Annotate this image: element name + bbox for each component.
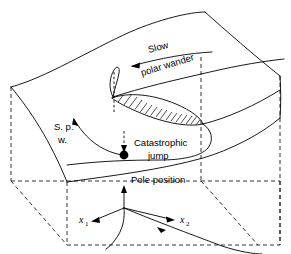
control-plane-axes: x 1 x 2: [78, 208, 262, 254]
axis-x2-arrowhead: [166, 217, 175, 223]
slow-label: Slow: [147, 39, 170, 55]
axis-x2-subscript: 2: [186, 220, 190, 228]
pole-position-annotation: Pole position: [121, 174, 185, 208]
polar-wander-label: polar wander: [139, 51, 195, 78]
catastrophic-jump-annotation: Catastrophic jump: [120, 131, 188, 161]
base-edge-left-receding: [11, 181, 67, 245]
pole-position-arrowhead: [121, 185, 127, 193]
spw-annotation: S. p. w.: [54, 118, 122, 155]
surface-fold-right-branch: [203, 90, 280, 124]
spw-label-line1: S. p.: [54, 121, 74, 132]
axis-x1-arrowhead: [91, 217, 100, 223]
spw-label-line2: w.: [57, 134, 67, 145]
surface-edge-front-lower: [67, 118, 280, 182]
diagram-canvas: Slow polar wander S. p. w. Catastrophic …: [0, 0, 291, 254]
axis-x1-subscript: 1: [85, 220, 89, 228]
bifurcation-branch-arrowhead: [157, 227, 166, 233]
base-edge-inner-receding: [201, 181, 258, 245]
pole-state-marker-dot: [120, 151, 129, 160]
jump-label: jump: [147, 150, 169, 161]
surface-edge-back-right: [205, 12, 280, 76]
axis-x1-line: [95, 208, 124, 220]
pole-position-label: Pole position: [131, 174, 185, 185]
spw-arrow-line: [74, 119, 122, 155]
surface-edge-back-left: [11, 12, 205, 87]
axis-x2-label: x: [179, 214, 185, 225]
bifurcation-branch-right: [124, 208, 262, 254]
fold-region: [67, 67, 217, 165]
cusp-catastrophe-diagram: Slow polar wander S. p. w. Catastrophic …: [0, 0, 291, 254]
slow-polar-wander-annotation: Slow polar wander: [131, 39, 212, 78]
cusp-point-loop: [110, 67, 119, 97]
catastrophic-label: Catastrophic: [134, 137, 188, 148]
axis-x1-label: x: [78, 214, 84, 225]
